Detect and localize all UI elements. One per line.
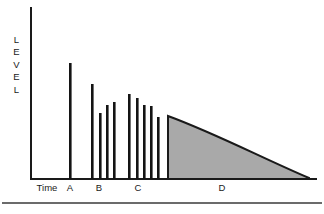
- y-axis-label-letter-4: E: [8, 71, 25, 83]
- bar-b-4: [113, 102, 116, 179]
- y-axis-label-letter-3: V: [8, 59, 25, 71]
- x-axis-labels: Time A B C D: [0, 182, 324, 198]
- bar-c-1: [128, 94, 131, 179]
- shaded-decay-area: [168, 116, 309, 179]
- bars-group: [69, 63, 160, 179]
- decay-region-d: [168, 116, 309, 179]
- bar-c-5: [157, 117, 160, 179]
- dose-level-figure: L E V E L Time A B C D: [0, 0, 324, 214]
- bar-c-2: [136, 98, 139, 179]
- x-axis-label-d: D: [219, 182, 226, 193]
- y-axis-label-letter-5: L: [8, 84, 25, 96]
- bar-c-4: [150, 106, 153, 179]
- y-axis-label-level: L E V E L: [8, 34, 25, 96]
- x-axis-label-a: A: [67, 182, 73, 193]
- x-axis-label-b: B: [96, 182, 102, 193]
- bar-b-2: [99, 113, 102, 179]
- bar-a-1: [69, 63, 72, 179]
- x-axis-label-time: Time: [37, 182, 58, 193]
- y-axis-label-letter-1: L: [8, 34, 25, 46]
- bar-c-3: [143, 105, 146, 179]
- bar-b-3: [106, 105, 109, 179]
- bar-b-1: [91, 84, 94, 179]
- y-axis-label-letter-2: E: [8, 46, 25, 58]
- x-axis-label-c: C: [135, 182, 142, 193]
